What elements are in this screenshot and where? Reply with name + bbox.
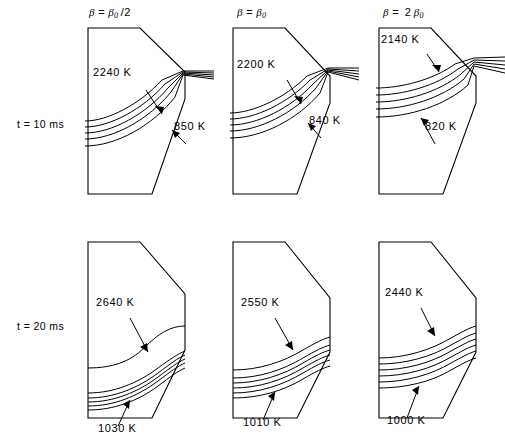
contour-band (233, 345, 330, 398)
column-header-beta-zero: β = β0 (237, 6, 266, 18)
row-label-t10: t = 10 ms (17, 118, 64, 130)
beta-symbol: β (383, 6, 389, 18)
contour-band (379, 333, 476, 388)
beta-symbol: β (89, 6, 95, 18)
panel-r1c2: 2200 K 840 K (231, 26, 359, 226)
hot-contour-label: 2200 K (237, 58, 275, 70)
leader-lines (118, 318, 148, 426)
cold-contour-label: 1000 K (387, 414, 425, 426)
cold-contour-label: 1030 K (98, 422, 136, 434)
panel-r2c1: 2640 K 1030 K (86, 240, 214, 440)
contour-hot (88, 326, 185, 368)
beta-zero-symbol: β0 (414, 6, 424, 18)
domain-outline (379, 28, 476, 194)
row-label-t20: t = 20 ms (17, 320, 64, 332)
cold-contour-label: 840 K (309, 114, 341, 126)
beta-zero-symbol: β0 (256, 6, 266, 18)
cold-contour-label: 850 K (174, 120, 206, 132)
column-header-beta-half: β = β0 /2 (89, 6, 131, 18)
equals-symbol: = (98, 6, 105, 18)
leader-lines (263, 318, 293, 420)
multiplier-text: 2 (402, 6, 413, 18)
cold-contour-label: 820 K (425, 120, 457, 132)
hot-contour-label: 2240 K (93, 66, 131, 78)
equals-symbol: = (392, 6, 399, 18)
panel-r1c1: 2240 K 850 K (86, 26, 214, 226)
divisor-text: /2 (118, 6, 130, 18)
domain-outline (379, 242, 476, 418)
contour-band (230, 68, 359, 138)
panel-r2c2: 2550 K 1010 K (231, 240, 359, 440)
beta-zero-symbol: β0 (108, 6, 118, 18)
domain-outline (88, 28, 185, 194)
hot-contour-label: 2140 K (381, 33, 419, 45)
contour-hot (233, 337, 330, 370)
panel-r2c3: 2440 K 1000 K (377, 240, 505, 440)
hot-contour-label: 2640 K (96, 296, 134, 308)
leader-arrowheads (268, 341, 293, 401)
column-header-two-beta: β = 2 β0 (383, 6, 424, 18)
leader-lines (407, 308, 435, 418)
hot-contour-label: 2440 K (385, 286, 423, 298)
contour-band (85, 71, 214, 146)
panel-r1c3: 2140 K 820 K (377, 26, 505, 226)
equals-symbol: = (246, 6, 253, 18)
hot-contour-label: 2550 K (241, 296, 279, 308)
cold-contour-label: 1010 K (243, 416, 281, 428)
beta-symbol: β (237, 6, 243, 18)
